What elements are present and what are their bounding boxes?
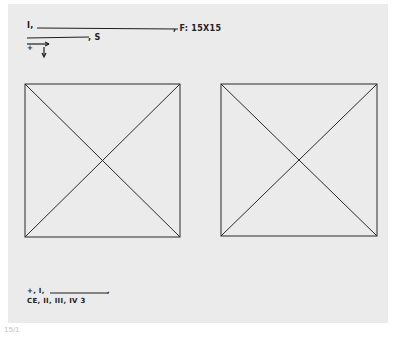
- page-caption: 15/1: [4, 325, 20, 334]
- header-label-s: , S: [88, 33, 101, 42]
- header-line-1: [37, 28, 178, 29]
- footer-note-line1-suffix: ,: [107, 287, 110, 295]
- header-label-dimensions: , F: 15X15: [173, 24, 221, 33]
- left-square-figure: [25, 84, 180, 237]
- header-arrow-marker: +: [27, 44, 33, 52]
- header-label-prefix: I,: [27, 21, 34, 30]
- header-lines: [27, 28, 178, 57]
- footer-note-line2: CE, II, III, IV 3: [27, 297, 86, 305]
- footer-note-line1: +, I,: [27, 287, 45, 295]
- right-square-figure: [221, 84, 377, 236]
- header-line-2: [27, 37, 89, 38]
- drawing-canvas: [0, 0, 399, 339]
